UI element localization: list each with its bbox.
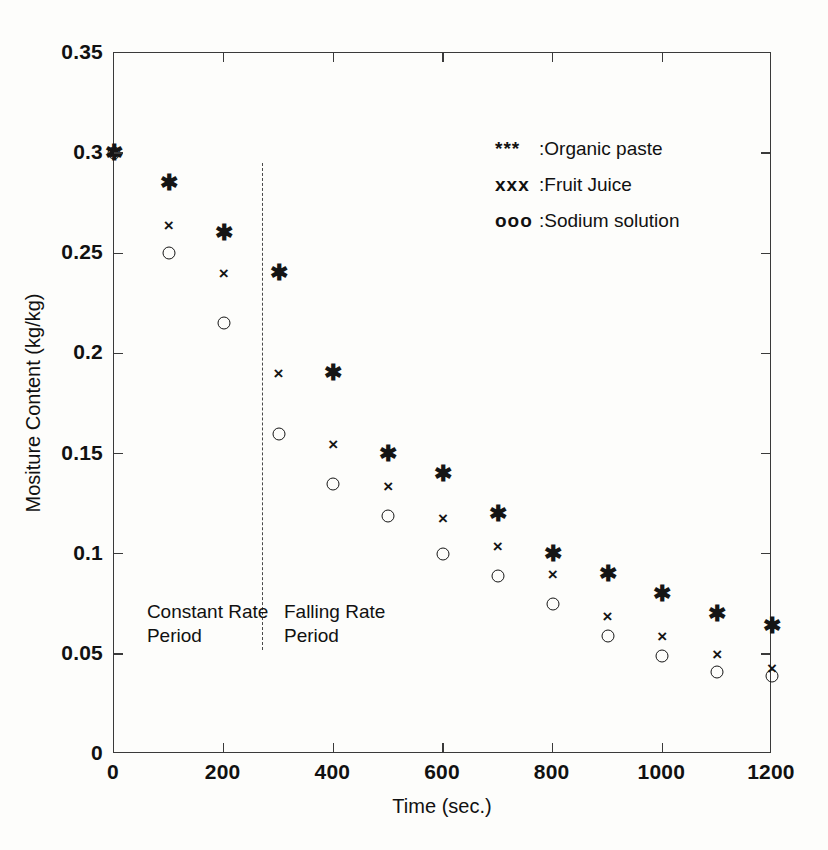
- data-point-circle: [272, 427, 285, 440]
- y-tick-left: [114, 553, 123, 554]
- data-point-cross: ×: [328, 435, 338, 452]
- data-point-circle: [656, 649, 669, 662]
- data-point-cross: ×: [712, 645, 722, 662]
- x-tick-label: 1200: [747, 760, 795, 784]
- x-tick-top: [223, 53, 224, 62]
- x-tick-label: 0: [107, 760, 119, 784]
- legend-entry: xxx:Fruit Juice: [495, 174, 679, 196]
- data-point-circle: [437, 547, 450, 560]
- y-tick-right: [761, 553, 770, 554]
- x-tick-bottom: [662, 743, 663, 752]
- data-point-cross: ×: [767, 659, 777, 676]
- x-tick-bottom: [333, 743, 334, 752]
- data-point-circle: [327, 477, 340, 490]
- y-tick-label: 0.05: [61, 641, 103, 665]
- legend-entry: ooo:Sodium solution: [495, 210, 679, 232]
- period-divider-line: [262, 163, 263, 650]
- x-tick-label: 1000: [638, 760, 686, 784]
- data-point-star: ✱: [270, 262, 288, 284]
- x-tick-bottom: [223, 743, 224, 752]
- data-point-cross: ×: [493, 537, 503, 554]
- data-point-circle: [546, 597, 559, 610]
- data-point-cross: ×: [164, 217, 174, 234]
- y-tick-left: [114, 653, 123, 654]
- x-tick-label: 600: [424, 760, 460, 784]
- data-point-star: ✱: [160, 172, 178, 194]
- data-point-star: ✱: [489, 503, 507, 525]
- y-tick-label: 0: [91, 741, 103, 765]
- y-tick-left: [114, 453, 123, 454]
- x-axis-label: Time (sec.): [392, 795, 491, 818]
- y-tick-label: 0.2: [73, 340, 103, 364]
- x-tick-label: 200: [205, 760, 241, 784]
- data-point-circle: [491, 569, 504, 582]
- x-tick-label: 400: [315, 760, 351, 784]
- y-axis-label: Mositure Content (kg/kg): [22, 294, 45, 513]
- data-point-cross: ×: [219, 265, 229, 282]
- data-point-star: ✱: [434, 463, 452, 485]
- data-point-cross: ×: [603, 607, 613, 624]
- data-point-circle: [711, 665, 724, 678]
- legend: ***:Organic pastexxx:Fruit Juiceooo:Sodi…: [495, 138, 679, 246]
- data-point-cross: ×: [548, 565, 558, 582]
- data-point-circle: [217, 317, 230, 330]
- y-tick-label: 0.15: [61, 441, 103, 465]
- data-point-circle: [162, 247, 175, 260]
- data-point-star: ✱: [599, 563, 617, 585]
- legend-label: :Sodium solution: [539, 210, 679, 232]
- y-tick-label: 0.3: [73, 140, 103, 164]
- data-point-circle: [766, 669, 779, 682]
- y-tick-label: 0.25: [61, 240, 103, 264]
- data-point-cross: ×: [438, 509, 448, 526]
- y-tick-right: [761, 253, 770, 254]
- y-tick-right: [761, 653, 770, 654]
- legend-symbol-icon: xxx: [495, 174, 537, 196]
- y-tick-right: [761, 453, 770, 454]
- legend-label: :Fruit Juice: [539, 174, 632, 196]
- x-tick-bottom: [442, 743, 443, 752]
- y-tick-right: [761, 353, 770, 354]
- data-point-star: ✱: [763, 615, 781, 637]
- data-point-star: ✱: [215, 222, 233, 244]
- y-tick-label: 0.1: [73, 541, 103, 565]
- x-tick-label: 800: [534, 760, 570, 784]
- data-point-cross: ×: [274, 365, 284, 382]
- falling-rate-period: Falling Rate Period: [284, 600, 385, 648]
- x-tick-top: [333, 53, 334, 62]
- y-tick-left: [114, 353, 123, 354]
- data-point-star: ✱: [653, 583, 671, 605]
- legend-entry: ***:Organic paste: [495, 138, 679, 160]
- legend-symbol-icon: ***: [495, 138, 537, 160]
- x-tick-top: [662, 53, 663, 62]
- data-point-circle: [382, 509, 395, 522]
- data-point-star: ✱: [379, 443, 397, 465]
- data-point-circle: [601, 629, 614, 642]
- data-point-star: ✱: [708, 603, 726, 625]
- data-point-cross: ×: [383, 477, 393, 494]
- y-tick-right: [761, 152, 770, 153]
- constant-rate-period: Constant Rate Period: [147, 600, 268, 648]
- x-tick-top: [552, 53, 553, 62]
- x-tick-top: [442, 53, 443, 62]
- data-point-star: ✱: [324, 362, 342, 384]
- data-point-star: ✱: [544, 543, 562, 565]
- drying-curve-figure: ✱✱✱✱✱✱✱✱✱✱✱✱✱×××××××××××××Constant Rate …: [0, 0, 828, 850]
- y-tick-label: 0.35: [61, 40, 103, 64]
- legend-label: :Organic paste: [539, 138, 663, 160]
- data-point-cross: ×: [657, 627, 667, 644]
- y-tick-left: [114, 253, 123, 254]
- y-tick-left: [114, 152, 123, 153]
- legend-symbol-icon: ooo: [495, 210, 537, 232]
- x-tick-bottom: [552, 743, 553, 752]
